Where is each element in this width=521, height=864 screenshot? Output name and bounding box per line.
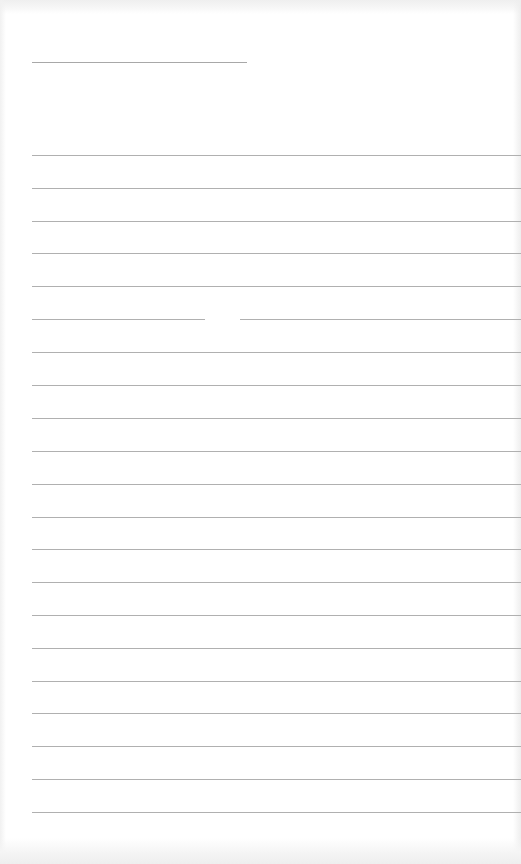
ruled-line xyxy=(32,713,521,714)
ruled-line xyxy=(32,582,521,583)
ruled-line xyxy=(32,746,521,747)
ruled-line xyxy=(32,319,521,320)
lined-paper-page xyxy=(0,0,521,864)
ruled-line xyxy=(32,352,521,353)
ruled-line xyxy=(32,779,521,780)
ruled-line xyxy=(32,286,521,287)
scan-shadow-top xyxy=(0,0,521,14)
header-name-line xyxy=(32,62,247,63)
ruled-line xyxy=(32,418,521,419)
ruled-line xyxy=(32,615,521,616)
ruled-line xyxy=(32,221,521,222)
ruled-line xyxy=(32,681,521,682)
ruled-line xyxy=(32,451,521,452)
ruled-line xyxy=(32,385,521,386)
scan-shadow-bottom xyxy=(0,838,521,864)
ruled-line xyxy=(32,549,521,550)
ruled-line xyxy=(32,253,521,254)
ruled-line xyxy=(32,484,521,485)
ruled-line xyxy=(32,648,521,649)
ruled-line xyxy=(32,188,521,189)
ruled-line xyxy=(32,155,521,156)
scan-shadow-right xyxy=(513,0,521,864)
ruled-line xyxy=(32,517,521,518)
ruled-line xyxy=(32,812,521,813)
scan-shadow-left xyxy=(0,0,6,864)
